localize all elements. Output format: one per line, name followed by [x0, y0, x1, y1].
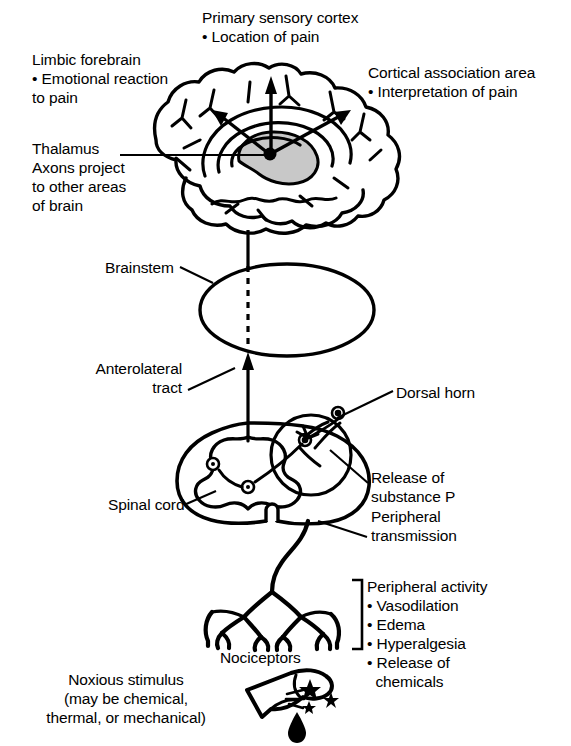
label-primary-sensory-cortex: Primary sensory cortex • Location of pai… — [202, 8, 358, 46]
nerve-branch-l1 — [222, 617, 244, 633]
label-brainstem: Brainstem — [105, 258, 174, 277]
label-peripheral-activity: Peripheral activity • Vasodilation • Ede… — [367, 577, 487, 691]
nerve-branch-r1 — [283, 617, 301, 637]
nerve-branch-right-main — [272, 592, 301, 617]
label-limbic-forebrain: Limbic forebrain • Emotional reaction to… — [32, 50, 168, 107]
label-noxious-stimulus: Noxious stimulus (may be chemical, therm… — [10, 670, 242, 727]
nerve-twig-r-far — [301, 612, 331, 617]
peripheral-activity-bracket — [352, 580, 362, 649]
leader-anterolateral-tract — [188, 368, 235, 390]
brainstem-group — [180, 264, 374, 356]
label-release-of-substance-p: Release of substance P — [371, 468, 455, 506]
nerve-twig-l-far — [212, 611, 244, 617]
label-nociceptors: Nociceptors — [220, 648, 301, 667]
label-cortical-association-area: Cortical association area • Interpretati… — [368, 63, 535, 101]
anterolateral-tract-group — [188, 352, 254, 430]
label-spinal-cord: Spinal cord — [108, 495, 184, 514]
nerve-branch-r2 — [301, 617, 323, 634]
leader-brainstem — [180, 267, 213, 283]
label-anterolateral-tract: Anterolateral tract — [62, 359, 182, 397]
pain-pathway-figure: Primary sensory cortex • Location of pai… — [0, 0, 571, 746]
nerve-trunk — [272, 521, 308, 592]
spinal-cord-group — [177, 391, 393, 537]
label-dorsal-horn: Dorsal horn — [396, 383, 475, 402]
cord-ventral-fissure — [266, 504, 278, 521]
label-peripheral-transmission: Peripheral transmission — [371, 507, 457, 545]
leader-peripheral-transmission — [318, 521, 367, 537]
nerve-branch-l2 — [244, 617, 261, 637]
peripheral-nerve-group — [206, 521, 339, 650]
blood-drop — [288, 712, 306, 743]
nerve-branch-left-main — [244, 592, 272, 617]
brainstem-ellipse — [200, 264, 374, 356]
label-thalamus: Thalamus Axons project to other areas of… — [32, 139, 126, 215]
anterolateral-tract-arrowhead — [242, 352, 254, 370]
leader-dorsal-horn — [337, 391, 393, 418]
temporal-fold-line — [212, 198, 336, 204]
